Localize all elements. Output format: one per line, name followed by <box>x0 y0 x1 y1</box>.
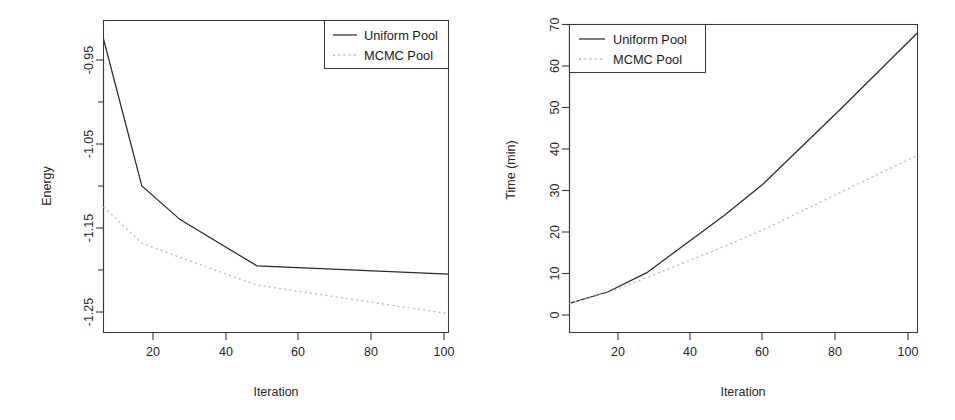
energy-x-tick-label: 80 <box>364 345 378 359</box>
energy-x-axis-title: Iteration <box>253 385 298 399</box>
time-legend-label-mcmc-pool: MCMC Pool <box>613 52 682 67</box>
energy-legend-label-uniform-pool: Uniform Pool <box>364 28 438 43</box>
energy-y-tick-label: -1.05 <box>82 130 96 159</box>
time-y-tick-label: 60 <box>548 59 562 73</box>
energy-series-uniform-pool <box>104 39 449 274</box>
energy-y-tick-label: -0.95 <box>82 46 96 75</box>
time-x-tick-label: 20 <box>611 345 625 359</box>
time-series-mcmc-pool <box>570 155 918 303</box>
energy-x-tick-label: 40 <box>219 345 233 359</box>
time-x-axis-title: Iteration <box>720 385 765 399</box>
time-y-tick-label: 0 <box>548 311 562 318</box>
energy-y-tick-label: -1.25 <box>82 298 96 327</box>
time-y-tick-label: 70 <box>548 18 562 32</box>
time-legend-label-uniform-pool: Uniform Pool <box>613 32 687 47</box>
time-x-tick-label: 100 <box>898 345 919 359</box>
time-y-tick-label: 20 <box>548 225 562 239</box>
time-y-tick-label: 40 <box>548 142 562 156</box>
two-panel-line-chart-figure: -0.95 -1.05 -1.15 -1.25 Energy 20 40 60 … <box>0 0 955 420</box>
time-x-tick-label: 40 <box>683 345 697 359</box>
energy-chart-panel: -0.95 -1.05 -1.15 -1.25 Energy 20 40 60 … <box>0 0 478 420</box>
time-chart-panel: 0 10 20 30 40 50 60 70 Time (min) 20 40 … <box>478 0 955 420</box>
energy-y-tick-label: -1.15 <box>82 214 96 243</box>
energy-x-tick-label: 100 <box>434 345 455 359</box>
energy-series-mcmc-pool <box>104 207 449 314</box>
time-y-tick-label: 10 <box>548 267 562 281</box>
time-y-tick-label: 30 <box>548 184 562 198</box>
energy-x-tick-label: 60 <box>291 345 305 359</box>
energy-legend-label-mcmc-pool: MCMC Pool <box>364 48 433 63</box>
time-y-axis-title: Time (min) <box>504 140 518 199</box>
time-x-tick-label: 60 <box>755 345 769 359</box>
energy-plot-svg: -0.95 -1.05 -1.15 -1.25 Energy 20 40 60 … <box>0 0 478 420</box>
time-x-tick-label: 80 <box>828 345 842 359</box>
energy-y-axis-title: Energy <box>40 165 54 205</box>
time-series-uniform-pool <box>570 33 918 304</box>
time-y-tick-label: 50 <box>548 101 562 115</box>
energy-x-tick-label: 20 <box>146 345 160 359</box>
time-legend: Uniform Pool MCMC Pool <box>570 25 706 73</box>
time-plot-svg: 0 10 20 30 40 50 60 70 Time (min) 20 40 … <box>478 0 955 420</box>
energy-legend: Uniform Pool MCMC Pool <box>325 21 449 69</box>
